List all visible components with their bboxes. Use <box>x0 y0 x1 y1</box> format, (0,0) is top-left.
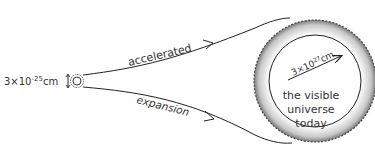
universe-label-line2: universe <box>287 103 335 116</box>
expansion-diagram: 3×10-25cm accelerated expansion 3×1027cm… <box>0 0 375 160</box>
initial-size-label: 3×10-25cm <box>4 75 58 87</box>
initial-universe <box>66 74 84 88</box>
expansion-label: expansion <box>136 93 191 118</box>
universe-label-line3: today <box>295 117 327 130</box>
accelerated-label: accelerated <box>127 42 193 69</box>
arrowhead-icon <box>203 40 213 49</box>
universe-label-line1: the visible <box>283 89 340 102</box>
